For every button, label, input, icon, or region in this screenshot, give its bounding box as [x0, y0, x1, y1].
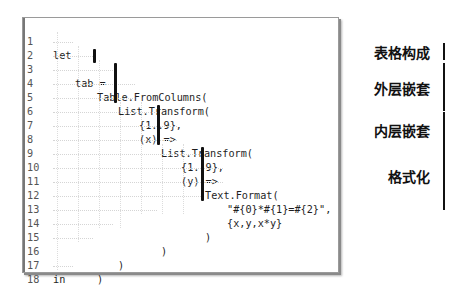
- code-line: 17 in: [23, 245, 338, 259]
- label-table-construct: 表格构成: [340, 42, 430, 62]
- bracket-outer-nesting: [443, 63, 445, 111]
- code-line: 2 tab =: [23, 35, 338, 49]
- outer-nesting-marker: [114, 63, 117, 103]
- formatting-marker: [201, 147, 204, 201]
- code-text: ): [97, 273, 103, 287]
- code-line: 14 ): [23, 203, 338, 217]
- code-line: 13 ): [23, 189, 338, 203]
- code-text: in: [53, 273, 65, 287]
- code-line: 11 "#{0}*#{1}=#{2}",: [23, 161, 338, 175]
- code-line: 9 (y) =>: [23, 133, 338, 147]
- code-line: 3 Table.FromColumns(: [23, 49, 338, 63]
- code-line: 16 ): [23, 231, 338, 245]
- code-line: 1 let: [23, 21, 338, 35]
- line-number: 18: [27, 273, 43, 287]
- code-line: 4 List.Transform(: [23, 63, 338, 77]
- bracket-formatting: [443, 160, 445, 210]
- code-line: 15 ): [23, 217, 338, 231]
- label-outer-nesting: 外层嵌套: [340, 78, 430, 98]
- code-line: 7 List.Transform(: [23, 105, 338, 119]
- table-construct-marker: [93, 49, 96, 63]
- bracket-inner-nesting: [443, 112, 445, 160]
- bracket-table-construct: [443, 43, 445, 60]
- code-line: 5 {1..9},: [23, 77, 338, 91]
- code-editor[interactable]: 1 let 2 tab = 3 Table.FromColumns( 4 Lis…: [22, 17, 339, 273]
- code-line: 18 tab: [23, 259, 338, 273]
- label-inner-nesting: 内层嵌套: [340, 120, 430, 140]
- code-line: 10 Text.Format(: [23, 147, 338, 161]
- inner-nesting-marker: [157, 105, 160, 145]
- code-line: 8 {1..9},: [23, 119, 338, 133]
- label-formatting: 格式化: [340, 166, 430, 186]
- code-line: 12 {x,y,x*y}: [23, 175, 338, 189]
- code-line: 6 (x) =>: [23, 91, 338, 105]
